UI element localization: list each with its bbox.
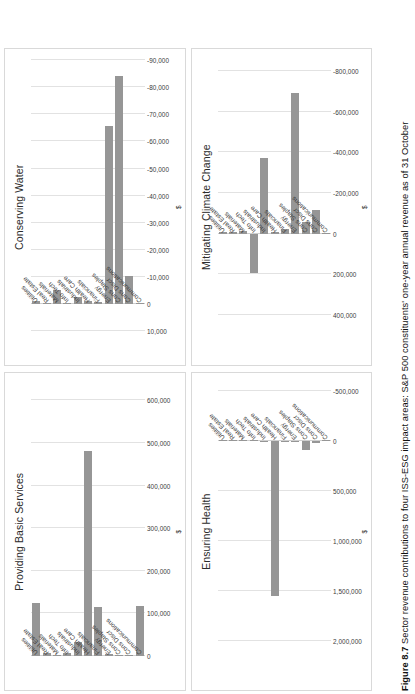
bar-cons-staples (302, 222, 310, 234)
bar-info-tech (250, 234, 258, 273)
bar-financials (94, 607, 102, 656)
chart-panel-conserving-water: Conserving Water CommunicationsCons Disc… (4, 48, 186, 367)
bar-real-estate (43, 303, 51, 304)
bar-materials (239, 231, 247, 233)
bar-row (281, 55, 289, 332)
x-tick-label: -80,000 (147, 84, 169, 91)
bars-2 (218, 380, 332, 657)
bar-row (271, 380, 279, 657)
x-tick-label: 400,000 (333, 312, 356, 319)
bar-row (53, 55, 61, 332)
bar-row (302, 55, 310, 332)
figure-caption: Figure 8.7 Sector revenue contributions … (399, 31, 411, 691)
bar-row (115, 380, 123, 657)
bar-utilities (219, 440, 227, 441)
bar-energy (105, 126, 113, 304)
bar-row (53, 380, 61, 657)
bars-3 (218, 55, 332, 332)
x-tick-label: -400,000 (333, 149, 359, 156)
bar-row (84, 380, 92, 657)
x-tick-label: -50,000 (147, 166, 169, 173)
bar-utilities (219, 232, 227, 234)
bar-health-care (84, 301, 92, 304)
axis-unit-label: $ (361, 49, 368, 366)
bar-row (312, 380, 320, 657)
bar-health-care (271, 441, 279, 596)
x-tick-label: 200,000 (333, 271, 356, 278)
plot-area-0: CommunicationsCons DiscrCons StaplesEner… (31, 380, 145, 657)
x-tick-label: -500,000 (333, 388, 359, 395)
x-tick-label: -60,000 (147, 138, 169, 145)
bar-row (291, 380, 299, 657)
bar-row (43, 55, 51, 332)
bar-row (281, 380, 289, 657)
chart-title: Mitigating Climate Change (200, 49, 212, 366)
bar-row (32, 55, 40, 332)
x-tick-label: 100,000 (147, 610, 170, 617)
x-tick-label: 300,000 (147, 525, 170, 532)
bar-row (229, 55, 237, 332)
bar-utilities (32, 603, 40, 656)
x-tick-label: -90,000 (147, 57, 169, 64)
bar-row (63, 380, 71, 657)
bar-row (219, 380, 227, 657)
figure-number: Figure 8.7 (400, 647, 410, 691)
bar-health-care (84, 451, 92, 656)
bar-row (74, 55, 82, 332)
x-tick-label: -800,000 (333, 68, 359, 75)
x-tick-label: -40,000 (147, 193, 169, 200)
bar-communications (322, 233, 330, 234)
bar-industrials (74, 642, 82, 656)
bar-financials (94, 302, 102, 304)
x-tick-label: -200,000 (333, 190, 359, 197)
x-tick-label: 0 (333, 231, 337, 238)
bar-cons-staples (115, 655, 123, 656)
bar-row (136, 55, 144, 332)
x-tick-label: 1,000,000 (333, 538, 362, 545)
charts-grid: Providing Basic Services CommunicationsC… (0, 0, 372, 694)
chart-title: Providing Basic Services (13, 374, 25, 691)
x-tick-label: 200,000 (147, 568, 170, 575)
bar-utilities (32, 301, 40, 305)
bar-row (125, 55, 133, 332)
x-tick-label: 500,000 (333, 488, 356, 495)
chart-panel-providing-basic-services: Providing Basic Services CommunicationsC… (4, 373, 186, 692)
x-tick-label: 1,500,000 (333, 588, 362, 595)
bar-row (32, 380, 40, 657)
plot-area-1: CommunicationsCons DiscrCons StaplesEner… (31, 55, 145, 332)
bar-row (322, 380, 330, 657)
bar-cons-staples (302, 441, 310, 450)
bar-financials (281, 441, 289, 442)
bar-row (260, 55, 268, 332)
bar-industrials (260, 441, 268, 442)
bar-row (84, 55, 92, 332)
x-tick-label: 500,000 (147, 440, 170, 447)
x-tick-label: -600,000 (333, 109, 359, 116)
bar-cons-discr (125, 276, 133, 305)
plot-area-2: CommunicationsCons DiscrCons StaplesEner… (218, 380, 332, 657)
bar-row (260, 380, 268, 657)
bar-row (250, 55, 258, 332)
bar-real-estate (229, 440, 237, 441)
bar-real-estate (229, 232, 237, 234)
bar-materials (53, 655, 61, 656)
bar-row (94, 380, 102, 657)
chart-title: Conserving Water (13, 49, 25, 366)
bar-cons-discr (125, 655, 133, 656)
figure-caption-text: Sector revenue contributions to four ISS… (400, 122, 410, 644)
axis-unit-label: $ (175, 49, 182, 366)
chart-panel-mitigating-climate-change: Mitigating Climate Change Communications… (191, 48, 373, 367)
x-tick-label: 2,000,000 (333, 638, 362, 645)
x-tick-label: -20,000 (147, 247, 169, 254)
bar-cons-staples (115, 76, 123, 304)
bar-industrials (260, 158, 268, 233)
rotated-page-wrapper: Providing Basic Services CommunicationsC… (0, 0, 415, 694)
bar-row (239, 55, 247, 332)
bar-energy (291, 441, 299, 442)
bars-0 (31, 380, 145, 657)
bar-row (136, 380, 144, 657)
bar-row (105, 380, 113, 657)
bar-communications (322, 440, 330, 441)
bar-energy (291, 93, 299, 234)
bar-financials (281, 229, 289, 233)
